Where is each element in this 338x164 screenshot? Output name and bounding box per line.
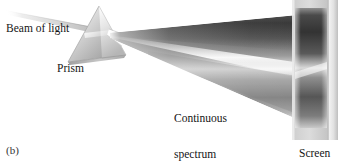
label-continuous-spectrum: Continuous spectrum xyxy=(174,88,227,164)
label-prism: Prism xyxy=(57,62,84,74)
screen-panel xyxy=(292,0,338,140)
prism-dispersion-figure: Beam of light Prism Continuous spectrum … xyxy=(0,0,338,164)
panel-label: (b) xyxy=(6,145,19,157)
label-screen: Screen xyxy=(299,147,330,159)
label-beam-of-light: Beam of light xyxy=(6,22,69,34)
label-continuous-spectrum-line1: Continuous xyxy=(174,112,227,124)
label-continuous-spectrum-line2: spectrum xyxy=(174,148,227,160)
